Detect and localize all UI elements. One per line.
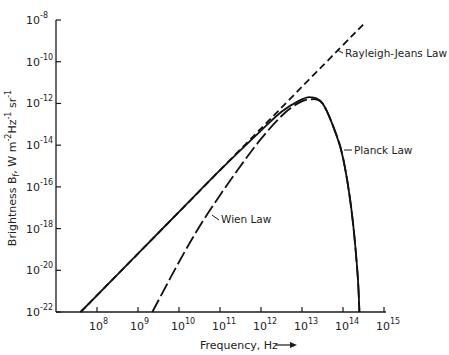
curve-labels: Rayleigh-Jeans Law Planck Law Wien Law — [212, 47, 447, 225]
x-axis-title-text: Frequency, Hz — [200, 339, 278, 352]
blackbody-chart: 10-810-1010-1210-1410-1610-1810-2010-22 … — [0, 0, 449, 355]
y-tick-label: 10-20 — [26, 261, 53, 277]
x-tick-label: 1013 — [294, 317, 318, 333]
x-tick-label: 108 — [89, 317, 108, 333]
x-tick-label: 1012 — [253, 317, 277, 333]
y-title-exp3: -1 — [4, 90, 13, 98]
x-ticks: 108109101010111012101310141015 — [89, 307, 400, 333]
y-tick-label: 10-8 — [26, 11, 48, 27]
wien-label: Wien Law — [221, 213, 272, 225]
curves — [81, 24, 364, 312]
y-axis-title: Brightness Bf, W m-2Hz-1 sr-1 — [4, 90, 21, 246]
y-tick-label: 10-14 — [26, 136, 53, 152]
planck-label: Planck Law — [354, 144, 413, 156]
y-title-units: , W m — [6, 142, 19, 174]
y-title-main: Brightness B — [6, 177, 19, 247]
x-tick-label: 1011 — [212, 317, 236, 333]
wien-lawcurve — [152, 99, 359, 312]
y-tick-label: 10-22 — [26, 303, 53, 319]
y-title-exp2: -1 — [4, 112, 13, 120]
y-title-exp1: -2 — [4, 134, 13, 142]
y-tick-label: 10-18 — [26, 220, 53, 236]
y-title-sr: sr — [6, 97, 19, 111]
x-tick-label: 109 — [130, 317, 149, 333]
axes — [56, 20, 386, 312]
y-tick-label: 10-10 — [26, 53, 53, 69]
x-axis-title: Frequency, Hz — [200, 339, 297, 352]
planck-lawcurve — [81, 97, 360, 312]
y-tick-label: 10-16 — [26, 178, 53, 194]
rayleigh-jeans-label: Rayleigh-Jeans Law — [345, 47, 447, 59]
y-title-hz: Hz — [6, 119, 19, 133]
arrow-right-icon — [276, 342, 297, 348]
x-tick-label: 1014 — [335, 317, 359, 333]
svg-text:Brightness Bf, W m-2Hz-1 sr-1: Brightness Bf, W m-2Hz-1 sr-1 — [4, 90, 21, 246]
x-tick-label: 1015 — [376, 317, 400, 333]
y-tick-label: 10-12 — [26, 94, 53, 110]
wien-leader — [212, 215, 219, 220]
x-tick-label: 1010 — [171, 317, 195, 333]
